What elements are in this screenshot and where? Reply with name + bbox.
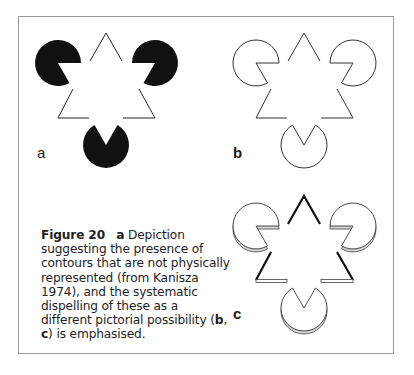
caption-text-1: Depiction suggesting the presence of con… xyxy=(41,228,230,327)
pacman-top-right xyxy=(132,40,178,86)
pacman-bottom xyxy=(83,125,129,168)
caption-text-2: ) is emphasised. xyxy=(48,327,145,341)
panel-a-figure xyxy=(35,33,178,168)
caption-sep: , xyxy=(223,313,227,327)
caption-figure-number: Figure 20 xyxy=(41,228,105,242)
figure-caption: Figure 20 a Depiction suggesting the pre… xyxy=(41,228,231,342)
panel-b-label: b xyxy=(233,144,242,161)
panel-a-label: a xyxy=(37,144,45,161)
pacman-top-left xyxy=(35,40,81,86)
panel-c-figure xyxy=(233,196,376,334)
panel-c-label: c xyxy=(233,305,241,322)
panel-b-figure xyxy=(233,33,376,168)
